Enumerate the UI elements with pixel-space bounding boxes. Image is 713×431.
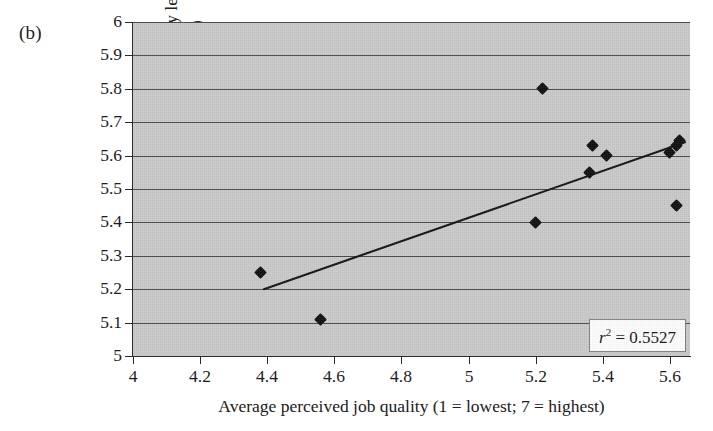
y-axis-tick [125, 356, 133, 357]
y-axis-tick [125, 289, 133, 290]
x-axis-tick-label: 4.4 [237, 367, 297, 386]
y-axis-tick-label: 6 [66, 13, 122, 31]
y-axis-tick [125, 89, 133, 90]
y-axis-tick [125, 323, 133, 324]
x-axis-tick [670, 356, 671, 364]
x-axis-tick-label: 5.2 [506, 367, 566, 386]
y-axis-tick-label: 5.6 [66, 147, 122, 165]
x-axis-tick [334, 356, 335, 364]
x-axis-tick-label: 5.6 [640, 367, 700, 386]
y-axis-tick [125, 55, 133, 56]
x-axis-tick-label: 4.8 [371, 367, 431, 386]
y-axis-tick-label: 5.5 [66, 180, 122, 198]
x-axis-tick [200, 356, 201, 364]
y-axis-tick [125, 256, 133, 257]
y-axis-tick [125, 122, 133, 123]
y-axis-tick [125, 22, 133, 23]
r-squared-annotation: r2 = 0.5527 [589, 319, 686, 352]
y-axis-tick-label: 5.7 [66, 113, 122, 131]
y-axis-tick-label: 5 [66, 347, 122, 365]
x-axis-line [132, 356, 691, 357]
x-axis-tick-label: 5.4 [573, 367, 633, 386]
x-axis-tick-label: 4 [103, 367, 163, 386]
r-squared-exponent: 2 [606, 326, 612, 338]
y-axis-tick [125, 156, 133, 157]
trendline [133, 22, 690, 356]
y-axis-tick-label: 5.1 [66, 314, 122, 332]
x-axis-tick [603, 356, 604, 364]
y-axis-tick-label: 5.3 [66, 247, 122, 265]
y-axis-tick-label: 5.8 [66, 80, 122, 98]
y-axis-tick-label: 5.4 [66, 213, 122, 231]
r-squared-value: = 0.5527 [615, 328, 676, 347]
x-axis-tick [401, 356, 402, 364]
data-layer [133, 22, 690, 356]
x-axis-tick [267, 356, 268, 364]
x-axis-tick-label: 4.6 [304, 367, 364, 386]
x-axis-tick [469, 356, 470, 364]
x-axis-title: Average perceived job quality (1 = lowes… [133, 396, 690, 417]
x-axis-tick-label: 5 [439, 367, 499, 386]
r-squared-symbol: r [599, 328, 606, 347]
x-axis-tick [536, 356, 537, 364]
y-axis-tick-label: 5.9 [66, 46, 122, 64]
x-axis-tick-label: 4.2 [170, 367, 230, 386]
y-axis-tick [125, 189, 133, 190]
y-axis-tick-label: 5.2 [66, 280, 122, 298]
x-axis-tick [133, 356, 134, 364]
y-axis-tick [125, 222, 133, 223]
panel-label: (b) [19, 22, 42, 44]
plot-area: r2 = 0.5527 [133, 22, 690, 356]
